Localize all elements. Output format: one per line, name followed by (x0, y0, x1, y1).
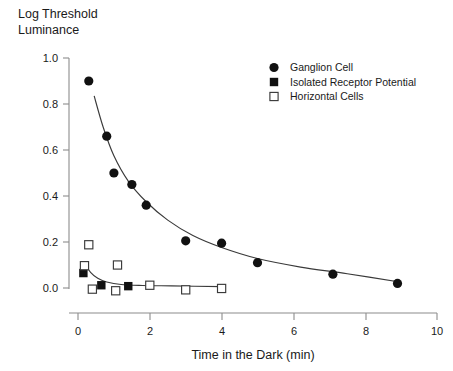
fit-curve (94, 96, 401, 282)
data-point (102, 132, 111, 141)
y-axis-title-line2: Luminance (18, 23, 79, 37)
plot-area (79, 76, 402, 294)
data-point (109, 168, 118, 177)
data-point (146, 281, 154, 289)
legend-label: Isolated Receptor Potential (290, 76, 416, 88)
x-tick-label: 10 (431, 325, 443, 337)
legend-label: Ganglion Cell (290, 61, 353, 73)
data-point (127, 180, 136, 189)
x-axis-ticks (78, 313, 437, 320)
data-point (112, 287, 120, 295)
y-axis-tick-labels: 1.0 0.8 0.6 0.4 0.2 0.0 (43, 52, 58, 294)
data-point (124, 282, 132, 290)
legend-marker-filled-circle (269, 63, 278, 72)
y-tick-label: 0.0 (43, 282, 58, 294)
data-point (97, 281, 105, 289)
legend-marker-filled-square (270, 78, 278, 86)
data-point (181, 236, 190, 245)
x-axis-title: Time in the Dark (min) (191, 348, 314, 362)
data-point (393, 279, 402, 288)
x-tick-label: 0 (75, 325, 81, 337)
data-point (113, 261, 121, 269)
data-point (217, 239, 226, 248)
x-tick-label: 8 (363, 325, 369, 337)
x-tick-label: 4 (219, 325, 225, 337)
y-axis-ticks (63, 58, 69, 288)
data-point (88, 285, 96, 293)
data-point (182, 286, 190, 294)
data-point (328, 270, 337, 279)
x-tick-label: 2 (147, 325, 153, 337)
y-axis-title-line1: Log Threshold (18, 7, 98, 21)
legend-marker-open-square (270, 92, 278, 100)
y-tick-label: 0.4 (43, 190, 58, 202)
data-point (142, 201, 151, 210)
x-axis-tick-labels: 0 2 4 6 8 10 (75, 325, 443, 337)
x-tick-label: 6 (291, 325, 297, 337)
data-point (253, 258, 262, 267)
data-point (218, 284, 226, 292)
series-points (84, 76, 402, 288)
chart-legend: Ganglion CellIsolated Receptor Potential… (269, 61, 416, 102)
scatter-chart: Log Threshold Luminance 1.0 0.8 0.6 0.4 … (0, 0, 453, 371)
series-points (79, 269, 132, 291)
y-tick-label: 0.6 (43, 144, 58, 156)
data-point (85, 241, 93, 249)
y-tick-label: 0.8 (43, 98, 58, 110)
data-point (80, 262, 88, 270)
legend-label: Horizontal Cells (290, 90, 364, 102)
y-tick-label: 0.2 (43, 236, 58, 248)
data-point (84, 76, 93, 85)
y-tick-label: 1.0 (43, 52, 58, 64)
